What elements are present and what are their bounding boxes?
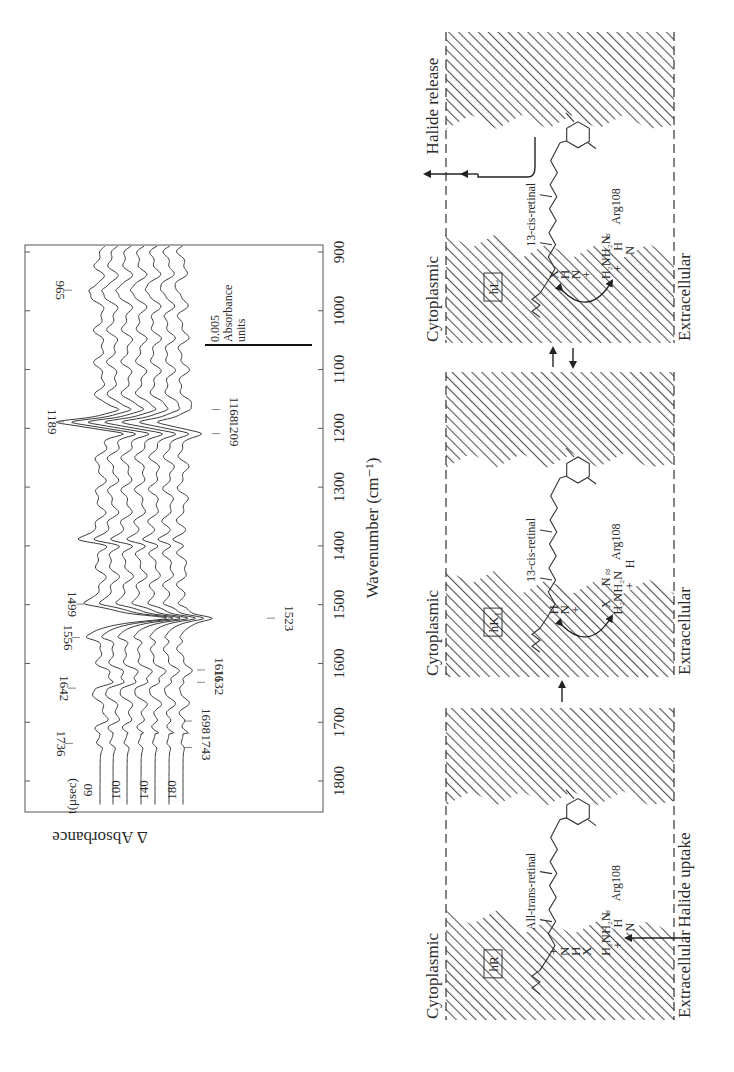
halorhodopsin-photocycle-diagram: CytoplasmicExtracellularhL13-cis-retinal… xyxy=(423,32,694,1020)
protein-helix-upper xyxy=(446,708,674,808)
arg108-atom: N xyxy=(623,246,637,255)
retinal-label: All-trans-retinal xyxy=(524,852,538,930)
extracellular-label: Extracellular xyxy=(675,253,694,341)
series-label: 60 xyxy=(80,784,95,797)
x-tick-label: 1300 xyxy=(331,472,347,502)
peak-label-negative: 1698 xyxy=(199,708,214,734)
panel-hK1: CytoplasmicExtracellularhK113-cis-retina… xyxy=(423,372,694,677)
schiff-base-atom: + xyxy=(568,606,583,613)
series-label: 100 xyxy=(108,780,123,800)
methyl-branch xyxy=(540,872,552,874)
peak-label-positive: 965 xyxy=(53,280,68,300)
arg108-atom: N xyxy=(623,922,637,931)
halide-uptake-label: Halide uptake xyxy=(675,833,694,928)
trace-160-usec xyxy=(140,246,204,804)
peak-label-negative: 1743 xyxy=(199,734,214,760)
ionone-ring xyxy=(567,799,590,825)
arg-bond: ≈ xyxy=(601,568,615,575)
legend-title: t(μsec) xyxy=(64,778,79,814)
protein-helix-lower xyxy=(446,234,674,343)
schiff-base-atom: X xyxy=(579,946,594,956)
x-tick-label: 1200 xyxy=(331,413,347,443)
arg108-atom: H xyxy=(611,918,625,927)
x-tick-label: 1400 xyxy=(331,531,347,561)
ring-methyl xyxy=(588,478,596,484)
scale-bar-unit: Absorbance xyxy=(221,285,235,342)
arg108-atom: + xyxy=(611,265,625,272)
retinal-label: 13-cis-retinal xyxy=(524,182,538,247)
protein-helix-lower xyxy=(446,570,674,678)
x-axis-label: Wavenumber (cm⁻¹) xyxy=(363,458,382,599)
methyl-branch xyxy=(540,578,552,580)
arg108-label: Arg108 xyxy=(609,524,623,560)
ring-link xyxy=(560,818,567,820)
cytoplasmic-label: Cytoplasmic xyxy=(423,590,442,676)
arg-bond: ≈ xyxy=(601,233,615,240)
peak-label-positive: 1736 xyxy=(54,730,69,757)
extracellular-label: Extracellular xyxy=(675,587,694,675)
cytoplasmic-label: Cytoplasmic xyxy=(423,256,442,342)
protein-helix-lower xyxy=(446,910,674,1020)
trace-60-usec xyxy=(57,246,167,804)
peak-label-positive: 1642 xyxy=(57,675,72,701)
ionone-ring xyxy=(567,122,590,148)
series-label: 140 xyxy=(136,780,151,800)
panel-hR: CytoplasmicExtracellularhRAll-trans-reti… xyxy=(423,708,694,1020)
halide-release-label: Halide release xyxy=(423,58,442,155)
state-label: hL xyxy=(486,280,501,295)
peak-label-negative: 1168 xyxy=(227,397,242,423)
retinal-label: 13-cis-retinal xyxy=(524,517,538,582)
arg108-atom: H₂N xyxy=(611,593,625,615)
scale-bar-unit-2: units xyxy=(234,318,248,342)
x-tick-label: 1700 xyxy=(331,707,347,737)
x-tick-label: 1600 xyxy=(331,648,347,678)
peak-label-negative: 1209 xyxy=(227,421,242,447)
series-time-labels: 60100140180 xyxy=(80,780,179,800)
trace-120-usec xyxy=(105,246,188,804)
arg108-atom: + xyxy=(623,582,637,589)
arg-bond: ≈ xyxy=(601,909,615,916)
arg108-label: Arg108 xyxy=(609,188,623,224)
plot-frame xyxy=(25,245,323,812)
peak-label-negative: 1611 xyxy=(212,657,227,683)
x-tick-label: 1000 xyxy=(331,296,347,326)
series-label: 180 xyxy=(164,780,179,800)
figure: 180017001600150014001300120011001000900 … xyxy=(0,0,734,1072)
peak-labels: 1736164215561499118996517431698163216111… xyxy=(45,280,297,760)
protein-helix-upper xyxy=(446,372,674,470)
x-tick-label: 900 xyxy=(331,241,347,264)
x-tick-label: 1800 xyxy=(331,766,347,796)
y-axis-label: Δ Absorbance xyxy=(52,828,147,847)
cytoplasmic-label: Cytoplasmic xyxy=(423,933,442,1019)
ftir-difference-spectrum-chart: 180017001600150014001300120011001000900 … xyxy=(25,241,382,847)
extracellular-label: Extracellular xyxy=(675,930,694,1018)
x-axis-tick-labels: 180017001600150014001300120011001000900 xyxy=(331,241,347,796)
ring-methyl xyxy=(588,143,596,149)
methyl-branch xyxy=(540,195,552,197)
peak-label-positive: 1556 xyxy=(61,625,76,652)
peak-label-positive: 1499 xyxy=(65,591,80,617)
arg108-label: Arg108 xyxy=(609,865,623,901)
peak-label-positive: 1189 xyxy=(45,409,60,435)
panel-hL: CytoplasmicExtracellularhL13-cis-retinal… xyxy=(423,32,694,343)
x-tick-label: 1500 xyxy=(331,590,347,620)
peak-label-negative: 1523 xyxy=(282,605,297,631)
state-label: hR xyxy=(486,956,501,972)
protein-helix-upper xyxy=(446,32,674,132)
ionone-ring xyxy=(567,457,590,483)
methyl-branch xyxy=(540,530,552,532)
ring-methyl xyxy=(588,820,596,826)
ring-link xyxy=(560,476,567,478)
schiff-base-atom: + xyxy=(579,271,594,278)
scale-bar-value: 0.005 xyxy=(208,315,222,342)
arg108-atom: H xyxy=(611,242,625,251)
x-tick-label: 1100 xyxy=(331,355,347,384)
ring-link xyxy=(560,141,567,143)
halide-path xyxy=(478,137,535,177)
arg108-atom: H xyxy=(623,559,637,568)
arg108-atom: + xyxy=(611,942,625,949)
